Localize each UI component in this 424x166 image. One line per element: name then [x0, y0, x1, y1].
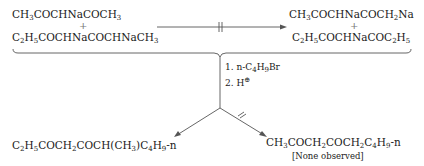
product-left-formula: C2H5COCH2COCH(CH3)C4H9-n — [12, 139, 177, 151]
reagent-step-1: 1. n-C4H9Br — [225, 61, 280, 73]
blocked-product-1-formula: CH3COCHNaCOCH2Na — [289, 8, 414, 20]
reactant-1-formula: CH3COCHNaCOCH3 — [12, 8, 121, 20]
plus-sign: + — [350, 20, 358, 31]
reactant-2-formula: C2H5COCHNaCOCHNaCH3 — [12, 31, 158, 43]
none-observed-note: [None observed] — [292, 150, 364, 162]
arrowhead-icon — [280, 25, 287, 30]
reagent-step-2: 2. H⊕ — [225, 77, 250, 89]
grouping-brace — [13, 49, 411, 57]
blocked-product-2-formula: C2H5COCHNaCOC2H5 — [292, 31, 410, 43]
left-product-arrow — [177, 108, 220, 135]
plus-sign: + — [79, 20, 87, 31]
arrowhead-icon — [174, 131, 181, 137]
right-product-arrow — [220, 108, 264, 135]
product-right-formula: CH3COCH2COCH2C4H9-n — [266, 136, 401, 148]
